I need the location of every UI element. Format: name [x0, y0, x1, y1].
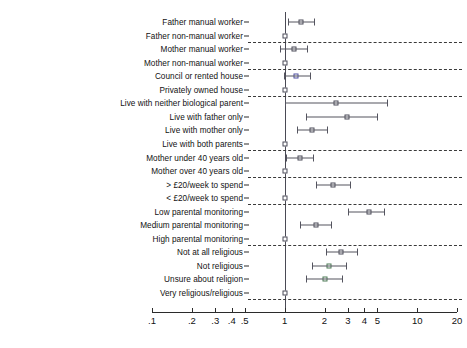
- category-label: > £20/week to spend: [166, 180, 243, 189]
- category-tick: [244, 211, 249, 212]
- ci-upper-cap: [377, 113, 378, 120]
- x-axis-tick: [348, 308, 349, 312]
- ci-upper-cap: [346, 262, 347, 269]
- x-axis-tick-label: 5: [375, 316, 380, 326]
- x-axis-tick-label: 3: [345, 316, 350, 326]
- confidence-interval-bar: [306, 279, 342, 280]
- ci-lower-cap: [316, 181, 317, 188]
- x-axis-tick-label: 4: [362, 316, 367, 326]
- reference-marker: [282, 196, 287, 201]
- category-tick: [244, 157, 249, 158]
- category-tick: [244, 279, 249, 280]
- x-axis-tick: [377, 308, 378, 312]
- reference-marker: [282, 87, 287, 92]
- reference-marker: [282, 141, 287, 146]
- category-label: Not at all religious: [177, 248, 243, 257]
- confidence-interval-bar: [297, 130, 327, 131]
- ci-lower-cap: [348, 208, 349, 215]
- category-label: High parental monitoring: [153, 234, 243, 243]
- category-label: Father manual worker: [162, 18, 243, 27]
- category-label: Mother manual worker: [161, 45, 243, 54]
- category-tick: [244, 103, 249, 104]
- group-separator: [248, 299, 462, 300]
- group-separator: [248, 177, 462, 178]
- ci-upper-cap: [310, 73, 311, 80]
- ci-upper-cap: [307, 46, 308, 53]
- category-label: Live with mother only: [165, 126, 243, 135]
- ci-lower-cap: [297, 127, 298, 134]
- ci-lower-cap: [286, 154, 287, 161]
- category-label: Low parental monitoring: [154, 207, 243, 216]
- x-axis-tick: [457, 308, 458, 312]
- category-label: Council or rented house: [155, 72, 243, 81]
- category-tick: [244, 89, 249, 90]
- ci-upper-cap: [384, 208, 385, 215]
- category-label: Mother over 40 years old: [151, 167, 243, 176]
- x-axis-line: [152, 312, 457, 313]
- x-axis-tick: [417, 308, 418, 312]
- reference-marker: [282, 60, 287, 65]
- confidence-interval-bar: [285, 103, 387, 104]
- category-tick: [244, 293, 249, 294]
- ci-lower-cap: [312, 262, 313, 269]
- x-axis-tick: [364, 308, 365, 312]
- confidence-interval-bar: [306, 116, 377, 117]
- ci-lower-cap: [300, 222, 301, 229]
- ci-upper-cap: [387, 100, 388, 107]
- category-label: Not religious: [197, 261, 243, 270]
- x-axis-tick: [232, 308, 233, 312]
- group-separator: [248, 69, 462, 70]
- x-axis-tick-label: .3: [211, 316, 219, 326]
- category-label: Privately owned house: [160, 85, 243, 94]
- x-axis-tick-label: .5: [241, 316, 249, 326]
- category-label: Medium parental monitoring: [140, 221, 243, 230]
- x-axis-tick: [325, 308, 326, 312]
- category-label: Live with father only: [170, 112, 243, 121]
- category-label: < £20/week to spend: [166, 194, 243, 203]
- x-axis-tick-label: .4: [228, 316, 236, 326]
- ci-upper-cap: [350, 181, 351, 188]
- category-tick: [244, 35, 249, 36]
- category-label: Mother under 40 years old: [146, 153, 243, 162]
- category-label: Live with both parents: [162, 139, 243, 148]
- category-label: Mother non-manual worker: [144, 58, 243, 67]
- reference-marker: [282, 236, 287, 241]
- x-axis-tick: [245, 308, 246, 312]
- ci-lower-cap: [285, 100, 286, 107]
- confidence-interval-bar: [326, 252, 357, 253]
- group-separator: [248, 204, 462, 205]
- forest-plot: Father manual workerFather non-manual wo…: [0, 0, 467, 348]
- category-tick: [244, 265, 249, 266]
- confidence-interval-bar: [284, 76, 310, 77]
- x-axis-tick-label: .1: [148, 316, 156, 326]
- ci-upper-cap: [327, 127, 328, 134]
- category-tick: [244, 76, 249, 77]
- ci-upper-cap: [313, 154, 314, 161]
- ci-upper-cap: [331, 222, 332, 229]
- confidence-interval-bar: [316, 184, 349, 185]
- group-separator: [248, 150, 462, 151]
- x-axis-tick: [285, 308, 286, 312]
- reference-line: [285, 12, 286, 312]
- confidence-interval-bar: [286, 157, 313, 158]
- group-separator: [248, 96, 462, 97]
- category-tick: [244, 143, 249, 144]
- ci-lower-cap: [306, 113, 307, 120]
- category-tick: [244, 238, 249, 239]
- category-tick: [244, 62, 249, 63]
- category-tick: [244, 184, 249, 185]
- x-axis-tick: [215, 308, 216, 312]
- reference-marker: [282, 291, 287, 296]
- group-separator: [248, 245, 462, 246]
- confidence-interval-bar: [348, 211, 384, 212]
- reference-marker: [282, 33, 287, 38]
- category-label: Unsure about religion: [164, 275, 243, 284]
- x-axis-tick: [192, 308, 193, 312]
- confidence-interval-bar: [312, 265, 345, 266]
- x-axis-tick-label: 2: [322, 316, 327, 326]
- x-axis-tick-label: 20: [452, 316, 463, 326]
- category-tick: [244, 22, 249, 23]
- category-tick: [244, 116, 249, 117]
- category-label: Father non-manual worker: [146, 31, 243, 40]
- confidence-interval-bar: [288, 22, 314, 23]
